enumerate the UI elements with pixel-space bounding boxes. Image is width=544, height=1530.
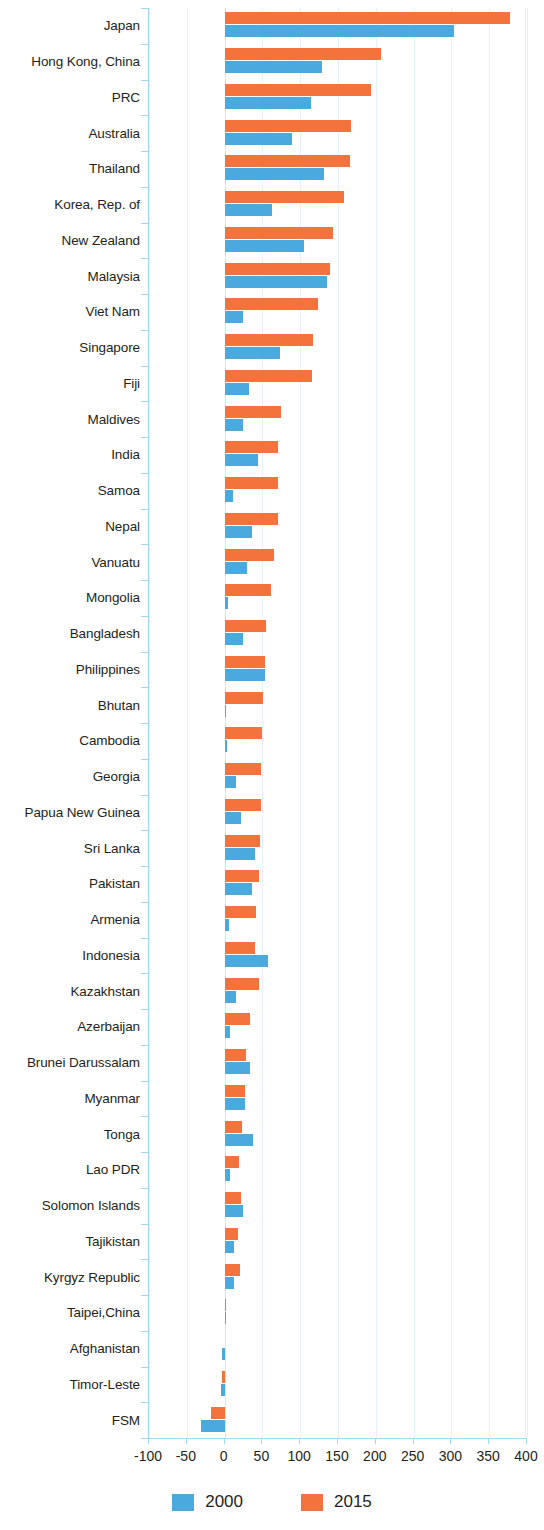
bar-2015 bbox=[225, 1121, 242, 1133]
y-tick bbox=[141, 652, 148, 653]
bar-2000 bbox=[221, 1384, 225, 1396]
y-tick bbox=[141, 473, 148, 474]
y-tick bbox=[141, 437, 148, 438]
bar-2000 bbox=[225, 133, 292, 145]
x-tick-label: 100 bbox=[288, 1448, 311, 1464]
bar-2000 bbox=[225, 848, 255, 860]
bar-2000 bbox=[225, 669, 265, 681]
category-label: Pakistan bbox=[0, 877, 140, 891]
bar-2000 bbox=[225, 991, 236, 1003]
bar-2000 bbox=[225, 883, 252, 895]
legend-swatch-2015-icon bbox=[301, 1494, 323, 1511]
category-label: Japan bbox=[0, 19, 140, 33]
y-tick bbox=[141, 258, 148, 259]
category-label: Bhutan bbox=[0, 699, 140, 713]
x-tick bbox=[450, 1438, 451, 1444]
bar-2015 bbox=[225, 835, 261, 847]
bar-2000 bbox=[225, 597, 228, 609]
bar-2015 bbox=[225, 1049, 246, 1061]
category-label: India bbox=[0, 448, 140, 462]
bar-2000 bbox=[222, 1348, 224, 1360]
y-tick bbox=[141, 223, 148, 224]
y-tick bbox=[141, 687, 148, 688]
category-label: FSM bbox=[0, 1414, 140, 1428]
y-tick bbox=[141, 544, 148, 545]
bar-2015 bbox=[225, 120, 351, 132]
bar-2000 bbox=[225, 919, 230, 931]
y-tick bbox=[141, 80, 148, 81]
legend-label-2015: 2015 bbox=[334, 1492, 372, 1512]
y-tick bbox=[141, 115, 148, 116]
category-label: Sri Lanka bbox=[0, 842, 140, 856]
y-tick bbox=[141, 1295, 148, 1296]
bar-2000 bbox=[225, 347, 280, 359]
bar-2000 bbox=[225, 204, 273, 216]
bar-2000 bbox=[225, 955, 269, 967]
y-tick bbox=[141, 795, 148, 796]
category-label: Armenia bbox=[0, 913, 140, 927]
bar-2000 bbox=[225, 562, 248, 574]
category-label: Vanuatu bbox=[0, 556, 140, 570]
category-label: Afghanistan bbox=[0, 1342, 140, 1356]
category-label: Hong Kong, China bbox=[0, 55, 140, 69]
y-tick bbox=[141, 1224, 148, 1225]
bar-2015 bbox=[225, 155, 350, 167]
category-label: Cambodia bbox=[0, 734, 140, 748]
bar-2000 bbox=[225, 383, 249, 395]
y-tick bbox=[141, 759, 148, 760]
y-tick bbox=[141, 509, 148, 510]
bar-2000 bbox=[225, 1026, 230, 1038]
y-tick bbox=[141, 580, 148, 581]
bar-2015 bbox=[225, 1156, 239, 1168]
bar-2015 bbox=[225, 1192, 242, 1204]
category-label: Azerbaijan bbox=[0, 1020, 140, 1034]
bar-2015 bbox=[225, 477, 279, 489]
bar-2015 bbox=[225, 227, 334, 239]
y-tick bbox=[141, 1045, 148, 1046]
y-tick bbox=[141, 902, 148, 903]
y-tick bbox=[141, 366, 148, 367]
bar-chart: JapanHong Kong, ChinaPRCAustraliaThailan… bbox=[0, 0, 544, 1530]
y-tick bbox=[141, 1367, 148, 1368]
category-label: Malaysia bbox=[0, 270, 140, 284]
category-label: Lao PDR bbox=[0, 1163, 140, 1177]
y-tick bbox=[141, 723, 148, 724]
bar-2000 bbox=[225, 1169, 230, 1181]
x-tick bbox=[148, 1438, 149, 1444]
bar-2015 bbox=[211, 1407, 225, 1419]
x-tick-label: -100 bbox=[134, 1448, 162, 1464]
category-label: Korea, Rep. of bbox=[0, 198, 140, 212]
category-label: Tonga bbox=[0, 1128, 140, 1142]
bar-2000 bbox=[225, 276, 328, 288]
plot-area bbox=[148, 8, 526, 1438]
bars-layer bbox=[149, 8, 525, 1438]
bar-2015 bbox=[222, 1371, 225, 1383]
bar-2015 bbox=[225, 978, 260, 990]
bar-2015 bbox=[225, 84, 371, 96]
x-tick bbox=[375, 1438, 376, 1444]
bar-2015 bbox=[225, 191, 344, 203]
y-tick bbox=[141, 151, 148, 152]
bar-2000 bbox=[225, 705, 226, 717]
bar-2015 bbox=[225, 48, 381, 60]
category-label: Brunei Darussalam bbox=[0, 1056, 140, 1070]
gridline bbox=[527, 8, 528, 1438]
bar-2015 bbox=[225, 12, 511, 24]
bar-2000 bbox=[225, 776, 236, 788]
y-tick bbox=[141, 1081, 148, 1082]
x-tick-label: 200 bbox=[363, 1448, 386, 1464]
x-tick bbox=[526, 1438, 527, 1444]
bar-2015 bbox=[225, 584, 272, 596]
bar-2015 bbox=[225, 1299, 227, 1311]
bar-2015 bbox=[225, 870, 259, 882]
category-label: PRC bbox=[0, 91, 140, 105]
bar-2015 bbox=[225, 799, 261, 811]
y-tick bbox=[141, 1402, 148, 1403]
category-label: Thailand bbox=[0, 162, 140, 176]
category-label: Papua New Guinea bbox=[0, 806, 140, 820]
bar-2000 bbox=[225, 419, 244, 431]
bar-2000 bbox=[201, 1420, 224, 1432]
bar-2000 bbox=[225, 633, 244, 645]
category-label: Tajikistan bbox=[0, 1235, 140, 1249]
y-tick bbox=[141, 830, 148, 831]
